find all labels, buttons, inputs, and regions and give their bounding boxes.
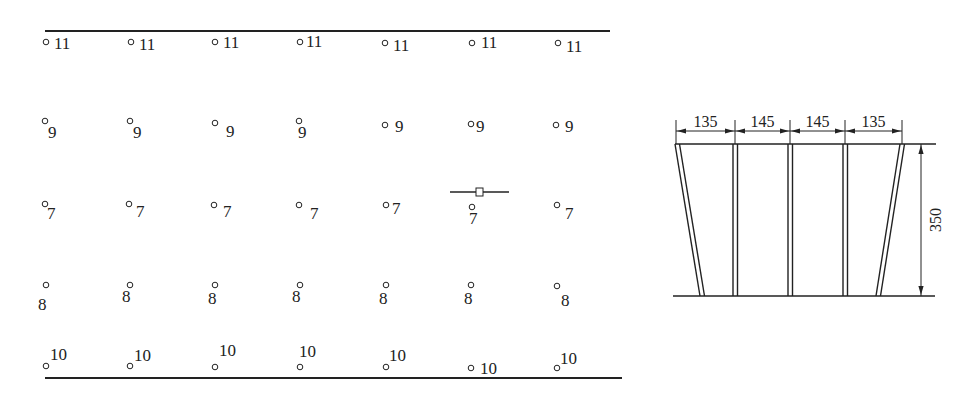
point-label: 10 [389,346,406,365]
point-label: 7 [47,204,56,223]
point-label: 8 [561,291,570,310]
plan-grid: 1111111111111199999997777777888888810101… [38,31,622,378]
height-dimension-label: 350 [927,208,944,232]
point-label: 10 [299,342,316,361]
survey-point: 11 [555,37,582,56]
section-elevation: 135145145135350 [673,113,944,296]
point-label: 7 [392,199,401,218]
point-label: 7 [310,204,319,223]
point-circle-icon [468,365,474,371]
point-circle-icon [212,282,218,288]
survey-point: 8 [554,283,569,310]
point-label: 9 [48,123,57,142]
section-post [788,144,793,296]
point-label: 11 [223,33,239,52]
point-circle-icon [297,39,303,45]
point-circle-icon [128,39,134,45]
point-label: 9 [476,117,485,136]
point-label: 11 [139,35,155,54]
survey-point: 7 [42,201,56,223]
survey-point: 8 [379,282,389,308]
survey-point: 8 [292,282,303,306]
point-label: 11 [393,36,409,55]
survey-point: 8 [464,282,474,308]
arrowhead-icon [736,128,745,133]
point-label: 7 [223,202,232,221]
point-label: 9 [226,122,235,141]
point-circle-icon [469,40,475,46]
point-row-9: 9999999 [42,117,573,142]
marker-symbol [450,188,509,196]
point-label: 10 [560,349,577,368]
arrowhead-icon [846,128,855,133]
point-circle-icon [383,282,389,288]
survey-point: 7 [296,202,319,223]
point-label: 9 [298,123,307,142]
survey-point: 8 [208,282,218,308]
point-row-11: 11111111111111 [43,32,582,56]
point-row-7: 7777777 [42,199,574,228]
point-circle-icon [468,121,474,127]
survey-point: 10 [383,346,406,370]
survey-point: 7 [126,201,145,221]
point-circle-icon [554,365,560,371]
point-circle-icon [43,363,49,369]
point-circle-icon [212,364,218,370]
survey-point: 8 [38,282,49,314]
width-dimension-label: 135 [862,113,886,130]
point-label: 9 [565,117,574,136]
point-label: 8 [122,287,131,306]
width-dimension-label: 135 [694,113,718,130]
arrowhead-down-icon [918,286,923,295]
width-dimension-label: 145 [751,113,775,130]
point-label: 11 [566,37,582,56]
section-post [843,144,848,296]
point-label: 8 [379,289,388,308]
point-circle-icon [555,40,561,46]
survey-point: 11 [212,33,239,52]
survey-point: 9 [468,117,484,136]
point-circle-icon [211,202,217,208]
survey-point: 9 [296,118,306,142]
survey-point: 10 [554,349,577,371]
survey-point: 7 [211,202,232,221]
point-circle-icon [43,39,49,45]
arrowhead-icon [725,128,734,133]
arrowhead-icon [677,128,686,133]
survey-point: 7 [383,199,401,218]
survey-point: 8 [122,282,133,306]
survey-point: 11 [469,33,497,52]
width-dimension-label: 145 [806,113,830,130]
point-circle-icon [468,282,474,288]
point-row-10: 10101010101010 [43,341,577,378]
survey-point: 9 [382,117,403,136]
point-circle-icon [554,202,560,208]
arrowhead-icon [780,128,789,133]
arrowhead-icon [835,128,844,133]
survey-point: 10 [212,341,236,370]
survey-point: 10 [297,342,316,370]
height-dimension: 350 [918,144,943,296]
survey-point: 10 [43,345,67,369]
point-label: 8 [292,287,301,306]
section-post [733,144,738,296]
point-circle-icon [296,202,302,208]
point-circle-icon [42,118,48,124]
point-label: 7 [136,202,145,221]
point-circle-icon [212,39,218,45]
point-label: 11 [54,34,70,53]
point-label: 8 [208,289,217,308]
survey-point: 11 [297,32,322,51]
point-label: 8 [38,295,47,314]
point-circle-icon [382,122,388,128]
survey-point: 10 [127,346,151,369]
point-label: 10 [50,345,67,364]
point-circle-icon [212,120,218,126]
point-circle-icon [554,283,560,289]
survey-point: 7 [554,202,574,223]
section-post [675,144,705,296]
survey-point: 9 [127,118,141,142]
point-label: 9 [133,123,142,142]
survey-point: 7 [469,204,478,228]
point-circle-icon [127,363,133,369]
